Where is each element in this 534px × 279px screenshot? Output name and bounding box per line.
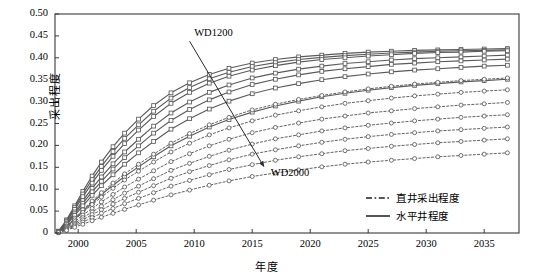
x-tick-label: 2010 [169,238,219,249]
y-tick-label: 0.20 [8,138,48,149]
x-tick-label: 2025 [343,238,393,249]
legend-item: 直井采出程度 [365,190,459,205]
solid-line-icon [365,211,391,221]
x-tick-label: 2005 [111,238,161,249]
annotation-label: WD2000 [271,167,310,178]
y-tick-label: 0.45 [8,29,48,40]
y-tick-label: 0.50 [8,7,48,18]
y-tick-label: 0.15 [8,160,48,171]
y-axis-title: 采出程度 [46,36,62,156]
x-tick-label: 2030 [401,238,451,249]
x-axis-title: 年度 [0,258,534,274]
y-tick-label: 0.30 [8,95,48,106]
x-tick-label: 2000 [53,238,103,249]
x-tick-label: 2020 [285,238,335,249]
chart-figure: 00.050.100.150.200.250.300.350.400.450.5… [0,0,534,279]
y-tick-label: 0.25 [8,117,48,128]
legend-label: 水平井程度 [396,208,449,223]
y-tick-label: 0 [8,226,48,237]
legend-item: 水平井程度 [365,208,459,223]
annotation-label: WD1200 [194,27,233,38]
y-tick-label: 0.10 [8,182,48,193]
dashed-line-icon [365,193,391,203]
y-tick-label: 0.05 [8,204,48,215]
y-tick-label: 0.35 [8,73,48,84]
chart-legend: 直井采出程度水平井程度 [365,190,459,226]
legend-label: 直井采出程度 [396,190,459,205]
x-tick-label: 2035 [459,238,509,249]
x-tick-label: 2015 [227,238,277,249]
y-tick-label: 0.40 [8,51,48,62]
